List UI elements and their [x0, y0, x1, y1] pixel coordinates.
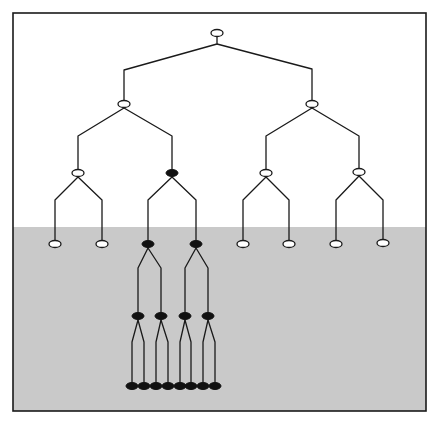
filled-node-L4a: [132, 313, 144, 320]
filled-node-L5b: [138, 383, 150, 390]
filled-node-L4c: [179, 313, 191, 320]
filled-node-L3d: [190, 241, 202, 248]
open-node-root: [211, 30, 223, 37]
tree-diagram: [0, 0, 442, 423]
open-node-L2d: [353, 169, 365, 176]
filled-node-L5h: [209, 383, 221, 390]
open-node-L2a: [72, 170, 84, 177]
filled-node-L5c: [150, 383, 162, 390]
filled-node-L2b: [166, 170, 178, 177]
filled-node-L4d: [202, 313, 214, 320]
filled-node-L5g: [197, 383, 209, 390]
open-node-L3e: [237, 241, 249, 248]
filled-node-L5d: [162, 383, 174, 390]
filled-node-L3c: [142, 241, 154, 248]
open-node-L1a: [118, 101, 130, 108]
open-node-L3f: [283, 241, 295, 248]
filled-node-L5e: [174, 383, 186, 390]
open-node-L3g: [330, 241, 342, 248]
open-node-L3h: [377, 240, 389, 247]
open-node-L1b: [306, 101, 318, 108]
filled-node-L4b: [155, 313, 167, 320]
open-node-L2c: [260, 170, 272, 177]
open-node-L3b: [96, 241, 108, 248]
filled-node-L5a: [126, 383, 138, 390]
open-node-L3a: [49, 241, 61, 248]
filled-node-L5f: [185, 383, 197, 390]
